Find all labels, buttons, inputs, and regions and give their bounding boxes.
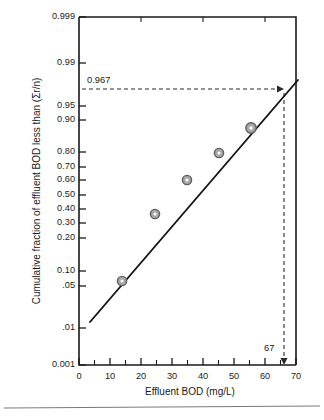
- y-tick-label: .01: [62, 322, 75, 332]
- bod-readout-label: 67: [264, 342, 274, 353]
- x-tick-label: 70: [291, 371, 301, 381]
- y-tick-label: 0.60: [57, 174, 75, 184]
- y-tick-label: 0.90: [57, 114, 75, 124]
- y-tick-label: 0.80: [57, 146, 75, 156]
- probability-readout-label: 0.967: [87, 74, 110, 85]
- x-tick-labels: 0 10 20 30 40 50 60 70: [76, 371, 301, 381]
- y-tick-label: 0.70: [57, 161, 75, 171]
- x-tick-label: 50: [229, 371, 239, 381]
- y-tick-label: 0.999: [52, 11, 75, 21]
- y-tick-label: 0.10: [57, 265, 75, 275]
- y-tick-label: 0.99: [57, 57, 75, 67]
- probability-plot-figure: 0.999 0.99 0.95 0.90 0.80 0.70 0.60 0.50…: [0, 0, 324, 420]
- x-tick-label: 30: [167, 371, 177, 381]
- y-tick-label: 0.40: [57, 203, 75, 213]
- right-arrowhead-icon: [277, 86, 284, 93]
- chart-canvas: 0.999 0.99 0.95 0.90 0.80 0.70 0.60 0.50…: [0, 0, 324, 420]
- y-tick-label: 0.001: [52, 359, 75, 369]
- y-tick-labels: 0.999 0.99 0.95 0.90 0.80 0.70 0.60 0.50…: [52, 11, 75, 369]
- x-tick-label: 0: [76, 371, 81, 381]
- x-tick-label: 60: [260, 371, 270, 381]
- plot-frame: [79, 17, 296, 365]
- footer-divider: [4, 406, 320, 408]
- y-axis-title: Cumulative fraction of effluent BOD less…: [31, 78, 42, 305]
- down-arrowhead-icon: [281, 358, 288, 365]
- y-tick-label: .05: [62, 280, 75, 290]
- x-tick-label: 10: [105, 371, 115, 381]
- axis-lines: [79, 17, 296, 365]
- frame-border: [79, 17, 296, 365]
- x-tick-label: 40: [198, 371, 208, 381]
- data-points: [117, 123, 256, 286]
- y-tick-label: 0.95: [57, 100, 75, 110]
- data-point: [117, 276, 126, 285]
- data-point: [150, 209, 159, 218]
- x-axis-title: Effluent BOD (mg/L): [145, 386, 235, 397]
- x-tick-label: 20: [136, 371, 146, 381]
- data-point: [246, 123, 256, 133]
- y-tick-label: 0.20: [57, 232, 75, 242]
- data-point: [182, 175, 191, 184]
- y-tick-label: 0.30: [57, 217, 75, 227]
- y-axis-ticks: [79, 17, 86, 365]
- data-point: [214, 148, 223, 157]
- y-tick-label: 0.50: [57, 189, 75, 199]
